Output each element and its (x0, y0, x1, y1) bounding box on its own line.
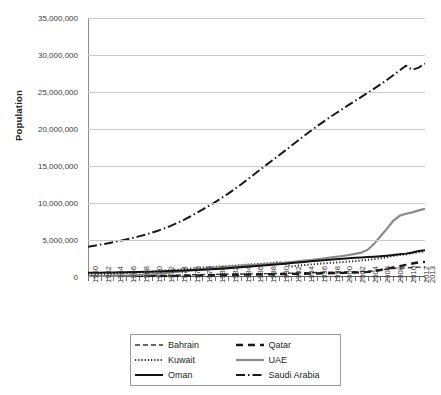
x-tick-mark (419, 277, 420, 281)
x-tick-label: 1988 (269, 266, 278, 283)
x-tick-mark (158, 277, 159, 281)
x-tick-mark (361, 277, 362, 281)
x-tick-mark (323, 277, 324, 281)
x-tick-mark (400, 277, 401, 281)
x-tick-mark (152, 277, 153, 281)
legend-label: UAE (269, 355, 288, 365)
legend-item-kuwait[interactable]: Kuwait (135, 352, 236, 367)
x-tick-mark (406, 277, 407, 281)
x-tick-mark (298, 277, 299, 281)
gridline (88, 55, 425, 56)
legend-label: Saudi Arabia (269, 370, 320, 380)
legend-item-qatar[interactable]: Qatar (236, 337, 337, 352)
solid-black-line-icon (135, 370, 163, 380)
y-tick-label: 5,000,000 (0, 236, 84, 245)
x-tick-mark (425, 277, 426, 281)
solid-gray-line-icon (236, 355, 264, 365)
x-tick-mark (412, 277, 413, 281)
x-tick-label: 2006 (383, 266, 392, 283)
x-tick-mark (285, 277, 286, 281)
x-tick-mark (342, 277, 343, 281)
population-line-chart-figure: Population 05,000,00010,000,00015,000,00… (0, 0, 441, 395)
x-tick-mark (120, 277, 121, 281)
gridline (88, 92, 425, 93)
x-tick-mark (164, 277, 165, 281)
x-tick-mark (317, 277, 318, 281)
x-tick-mark (266, 277, 267, 281)
gridline (88, 166, 425, 167)
x-tick-mark (215, 277, 216, 281)
x-tick-mark (336, 277, 337, 281)
x-tick-label: 1984 (244, 266, 253, 283)
y-tick-label: 20,000,000 (0, 125, 84, 134)
x-tick-label: 1996 (320, 266, 329, 283)
x-tick-label: 1986 (256, 266, 265, 283)
legend-item-oman[interactable]: Oman (135, 368, 236, 383)
x-tick-label: 1968 (142, 266, 151, 283)
x-tick-label: 1992 (294, 266, 303, 283)
legend-item-uae[interactable]: UAE (236, 352, 337, 367)
x-tick-mark (145, 277, 146, 281)
gridline (88, 18, 425, 19)
x-tick-label: 1978 (205, 266, 214, 283)
x-tick-mark (171, 277, 172, 281)
x-tick-mark (126, 277, 127, 281)
x-tick-mark (101, 277, 102, 281)
x-tick-mark (380, 277, 381, 281)
x-tick-mark (234, 277, 235, 281)
chart-legend: BahrainQatarKuwaitUAEOmanSaudi Arabia (130, 334, 341, 386)
x-tick-mark (349, 277, 350, 281)
x-tick-mark (228, 277, 229, 281)
legend-item-bahrain[interactable]: Bahrain (135, 337, 236, 352)
x-tick-mark (133, 277, 134, 281)
x-tick-mark (311, 277, 312, 281)
dashed-bold-line-icon (236, 340, 264, 350)
x-tick-mark (196, 277, 197, 281)
plot-area (88, 18, 425, 277)
x-tick-mark (202, 277, 203, 281)
x-tick-mark (272, 277, 273, 281)
gridline (88, 129, 425, 130)
gridline (88, 203, 425, 204)
x-tick-mark (387, 277, 388, 281)
x-tick-mark (368, 277, 369, 281)
x-tick-mark (94, 277, 95, 281)
x-tick-label: 2004 (371, 266, 380, 283)
series-lines (88, 18, 425, 277)
x-tick-label: 1960 (91, 266, 100, 283)
x-tick-label: 1990 (282, 266, 291, 283)
legend-label: Qatar (269, 340, 292, 350)
x-tick-mark (247, 277, 248, 281)
x-tick-mark (393, 277, 394, 281)
x-tick-mark (291, 277, 292, 281)
x-tick-mark (330, 277, 331, 281)
x-tick-label: 1962 (104, 266, 113, 283)
legend-label: Bahrain (168, 340, 199, 350)
legend-item-saudi-arabia[interactable]: Saudi Arabia (236, 368, 337, 383)
x-tick-label: 2013 (428, 266, 437, 283)
x-tick-mark (88, 277, 89, 281)
x-tick-label: 1994 (307, 266, 316, 283)
x-tick-mark (241, 277, 242, 281)
x-tick-label: 1966 (129, 266, 138, 283)
x-tick-mark (355, 277, 356, 281)
x-tick-label: 1970 (155, 266, 164, 283)
x-tick-label: 2000 (345, 266, 354, 283)
x-tick-label: 1972 (167, 266, 176, 283)
x-tick-label: 1998 (333, 266, 342, 283)
x-tick-mark (139, 277, 140, 281)
y-axis-tick-labels: 05,000,00010,000,00015,000,00020,000,000… (0, 0, 84, 395)
x-tick-mark (222, 277, 223, 281)
x-axis-tick-labels: 1960196219641966196819701972197419761978… (88, 277, 425, 317)
x-tick-label: 1974 (180, 266, 189, 283)
x-tick-mark (253, 277, 254, 281)
x-tick-mark (113, 277, 114, 281)
dash-dot-line-icon (236, 370, 264, 380)
x-tick-label: 2010 (409, 266, 418, 283)
x-tick-mark (183, 277, 184, 281)
x-tick-label: 2002 (358, 266, 367, 283)
x-tick-mark (177, 277, 178, 281)
x-tick-mark (260, 277, 261, 281)
y-tick-label: 0 (0, 273, 84, 282)
y-tick-label: 30,000,000 (0, 51, 84, 60)
